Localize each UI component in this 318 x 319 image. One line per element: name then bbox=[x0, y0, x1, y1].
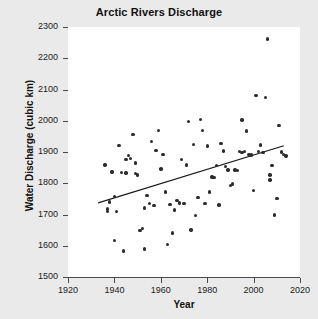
x-tick-mark bbox=[207, 278, 208, 283]
y-tick-label: 1500 bbox=[18, 271, 58, 281]
x-tick-mark bbox=[300, 278, 301, 283]
scatter-point bbox=[250, 153, 253, 156]
chart-figure: Arctic Rivers Discharge Water Discharge … bbox=[0, 0, 318, 319]
y-tick-label: 1600 bbox=[18, 240, 58, 250]
scatter-point bbox=[277, 124, 280, 127]
scatter-point bbox=[154, 149, 157, 152]
scatter-point bbox=[222, 149, 225, 152]
scatter-point bbox=[254, 94, 257, 97]
scatter-point bbox=[131, 133, 134, 136]
scatter-point bbox=[203, 202, 206, 205]
chart-title: Arctic Rivers Discharge bbox=[0, 6, 318, 18]
scatter-point bbox=[189, 228, 192, 231]
scatter-point bbox=[219, 142, 222, 145]
scatter-point bbox=[103, 163, 106, 166]
scatter-point bbox=[148, 202, 151, 205]
y-tick-label: 1700 bbox=[18, 209, 58, 219]
scatter-point bbox=[268, 173, 271, 176]
scatter-point bbox=[226, 168, 229, 171]
scatter-point bbox=[266, 37, 269, 40]
plot-area bbox=[68, 27, 300, 277]
scatter-point bbox=[196, 196, 199, 199]
scatter-point bbox=[178, 201, 181, 204]
x-tick-mark bbox=[161, 278, 162, 283]
x-tick-label: 1920 bbox=[48, 285, 88, 295]
scatter-point bbox=[171, 231, 174, 234]
scatter-point bbox=[136, 173, 139, 176]
y-tick-label: 2000 bbox=[18, 115, 58, 125]
scatter-point bbox=[259, 143, 262, 146]
scatter-point bbox=[268, 178, 271, 181]
y-tick-label: 2100 bbox=[18, 84, 58, 94]
y-tick-label: 2300 bbox=[18, 21, 58, 31]
x-tick-mark bbox=[114, 278, 115, 283]
y-tick-label: 1800 bbox=[18, 177, 58, 187]
y-tick-label: 1900 bbox=[18, 146, 58, 156]
scatter-point bbox=[134, 161, 137, 164]
scatter-point bbox=[217, 203, 220, 206]
scatter-point bbox=[168, 203, 171, 206]
x-tick-label: 1940 bbox=[94, 285, 134, 295]
scatter-point bbox=[124, 171, 127, 174]
scatter-point bbox=[273, 213, 276, 216]
scatter-point bbox=[120, 171, 123, 174]
x-tick-label: 1980 bbox=[187, 285, 227, 295]
x-tick-label: 1960 bbox=[141, 285, 181, 295]
y-tick-label: 2200 bbox=[18, 52, 58, 62]
x-tick-mark bbox=[254, 278, 255, 283]
scatter-point bbox=[143, 206, 146, 209]
scatter-point bbox=[261, 151, 264, 154]
scatter-point bbox=[164, 190, 167, 193]
scatter-point bbox=[110, 170, 113, 173]
x-tick-label: 2000 bbox=[234, 285, 274, 295]
scatter-point bbox=[208, 190, 211, 193]
scatter-point bbox=[240, 118, 243, 121]
scatter-point bbox=[284, 154, 287, 157]
scatter-point bbox=[185, 163, 188, 166]
trendline bbox=[68, 27, 300, 277]
scatter-point bbox=[192, 143, 195, 146]
x-axis-line bbox=[68, 277, 300, 278]
scatter-point bbox=[124, 158, 127, 161]
x-tick-mark bbox=[68, 278, 69, 283]
x-axis-label: Year bbox=[68, 299, 300, 310]
scatter-point bbox=[161, 153, 164, 156]
scatter-point bbox=[182, 202, 185, 205]
scatter-point bbox=[159, 167, 162, 170]
scatter-point bbox=[143, 247, 146, 250]
x-tick-label: 2020 bbox=[280, 285, 318, 295]
scatter-point bbox=[206, 144, 209, 147]
scatter-point bbox=[152, 204, 155, 207]
scatter-point bbox=[275, 197, 278, 200]
